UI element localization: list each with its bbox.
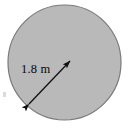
circle-diagram-figure: 1.8 m xyxy=(0,0,130,128)
dimension-label: 1.8 m xyxy=(21,62,51,76)
diagram-canvas: 1.8 m xyxy=(0,0,130,128)
edge-speck-artifact xyxy=(3,92,6,97)
